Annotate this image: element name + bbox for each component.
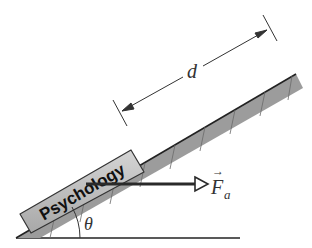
angle-label: θ — [84, 214, 93, 234]
distance-label: d — [187, 60, 198, 82]
incline-diagram: Psychology → F a θ d — [0, 0, 312, 248]
psychology-block: Psychology — [20, 150, 144, 233]
diagram-svg: Psychology → F a θ d — [0, 0, 312, 248]
force-subscript: a — [224, 187, 231, 202]
force-label: F — [210, 176, 224, 198]
